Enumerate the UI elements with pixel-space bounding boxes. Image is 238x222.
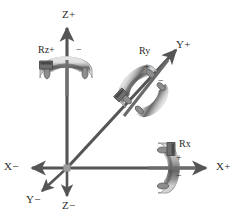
rx-minus-sign: − xyxy=(176,170,182,181)
axis-label-y-positive: Y+ xyxy=(176,38,191,50)
axes-and-rotation-rings-graphic xyxy=(0,0,238,222)
rz-minus-sign: − xyxy=(76,44,82,55)
rotation-ring-ry-lower xyxy=(134,81,170,118)
coordinate-axes-diagram: Z+ Z− X+ X− Y+ Y− Rz+ − Ry + − Rx + − xyxy=(0,0,238,222)
ry-plus-sign: + xyxy=(144,61,150,72)
axis-line-y-negative xyxy=(42,168,67,191)
rotation-label-ry: Ry xyxy=(139,45,150,56)
axis-label-y-negative: Y− xyxy=(26,193,41,205)
rx-ring-cap-right xyxy=(157,183,169,189)
rz-ring-cap-right xyxy=(82,67,88,79)
rotation-label-rx: Rx xyxy=(179,138,191,149)
axis-label-x-negative: X− xyxy=(4,160,19,172)
rx-plus-sign: + xyxy=(176,152,182,163)
axis-label-z-negative: Z− xyxy=(62,199,75,211)
rotation-label-rz: Rz+ xyxy=(38,44,55,55)
ry-ring-lower-cap-right xyxy=(134,105,145,116)
rx-ring-arrowhead-shade xyxy=(172,144,175,155)
ry-minus-sign: − xyxy=(158,75,164,86)
axis-label-z-positive: Z+ xyxy=(62,8,75,20)
origin-marker xyxy=(64,165,71,172)
rz-ring-arrowhead-shade xyxy=(41,62,52,65)
axis-label-x-positive: X+ xyxy=(216,160,231,172)
